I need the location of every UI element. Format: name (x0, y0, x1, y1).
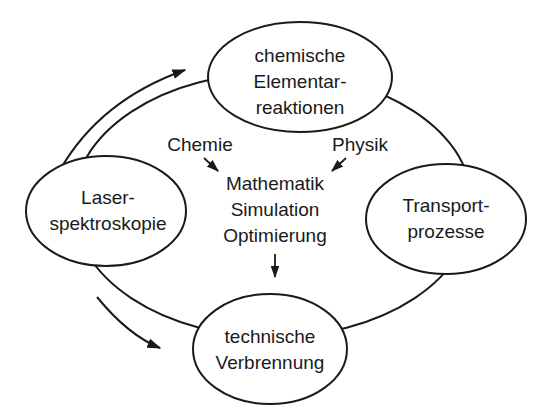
arrow-chemie-icon (204, 158, 218, 171)
arrow-up-left-icon (60, 70, 185, 170)
input-chemie: Chemie (167, 134, 232, 155)
node-right: Transport- prozesse (366, 164, 526, 274)
svg-text:Simulation: Simulation (231, 199, 320, 220)
svg-text:Mathematik: Mathematik (226, 173, 325, 194)
svg-text:Verbrennung: Verbrennung (216, 352, 325, 373)
svg-text:technische: technische (225, 326, 316, 347)
svg-text:chemische: chemische (255, 45, 346, 66)
center-block: Chemie Physik Mathematik Simulation Opti… (167, 134, 388, 277)
svg-text:Laser-: Laser- (81, 187, 135, 208)
arrow-down-left-icon (97, 297, 160, 348)
svg-text:Elementar-: Elementar- (254, 71, 347, 92)
node-left: Laser- spektroskopie (26, 156, 186, 266)
svg-text:prozesse: prozesse (407, 221, 484, 242)
arrow-physik-icon (332, 158, 346, 171)
svg-text:spektroskopie: spektroskopie (49, 213, 166, 234)
node-bottom: technische Verbrennung (193, 294, 347, 404)
node-top: chemische Elementar- reaktionen (208, 22, 392, 132)
svg-text:reaktionen: reaktionen (256, 97, 345, 118)
svg-text:Optimierung: Optimierung (223, 225, 327, 246)
input-physik: Physik (332, 134, 388, 155)
svg-text:Transport-: Transport- (403, 195, 490, 216)
cycle-diagram: chemische Elementar- reaktionen Laser- s… (0, 0, 547, 417)
